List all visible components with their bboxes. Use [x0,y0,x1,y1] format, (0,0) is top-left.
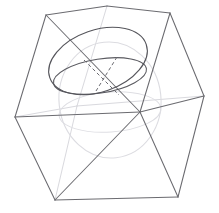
figure-canvas [0,0,219,213]
hidden-back-to-bottom-left [55,106,77,200]
edge-top-right-to-mid-right [170,13,204,96]
edge-top-front-to-bottom-right [140,112,178,197]
axis-group [84,57,119,95]
sphere-hidden-equator [58,88,163,135]
geometric-diagram-svg [0,0,219,213]
edge-mid-right-to-bottom-right [178,96,204,197]
edge-top-back-to-top-right [107,6,170,13]
axis-minor-dashed [96,57,117,91]
axis-major-dashed [84,60,119,95]
edge-top-back-to-top-left [46,6,107,15]
edge-mid-left-to-top-front [15,112,140,117]
edge-top-left-to-mid-left [15,15,46,117]
edge-bottom-left-to-bottom-right [55,197,178,200]
edge-mid-left-to-bottom-left [15,117,55,200]
hidden-back-vertical [77,6,107,106]
